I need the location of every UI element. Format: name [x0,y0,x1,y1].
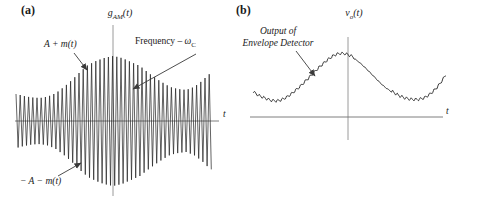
frequency-annotation: Frequency – ωC [135,36,196,49]
frequency-annotation-prefix: Frequency – [135,36,185,46]
panel-b-label: (b) [236,4,251,17]
annotation-arrow [58,163,81,176]
omega-subscript: C [191,41,196,49]
annotation-arrow [296,51,315,76]
detector-output-curve [253,52,446,102]
panel-b-time-axis-label: t [446,106,449,116]
panel-a-label: (a) [21,4,35,17]
panel-a-time-axis-label: t [223,109,226,119]
lower-envelope-annotation: − A − m(t) [20,176,61,186]
panel-a-title-sub: AM [113,13,123,21]
detector-output-annotation-line1: Output of [232,25,324,37]
panel-a-title-args: (t) [123,7,132,18]
upper-envelope-annotation: A + m(t) [44,39,77,49]
panel-b-axis-title: vo(t) [336,7,372,21]
annotation-arrow [74,53,87,70]
detector-output-annotation: Output of Envelope Detector [232,25,324,49]
panel-b-title-args: (t) [353,7,362,18]
detector-output-annotation-line2: Envelope Detector [232,37,324,49]
annotation-arrow [133,54,196,89]
panel-a-axis-title: gAM(t) [98,7,142,21]
am-detector-figure: (a) gAM(t) A + m(t) Frequency – ωC − A −… [0,0,477,206]
